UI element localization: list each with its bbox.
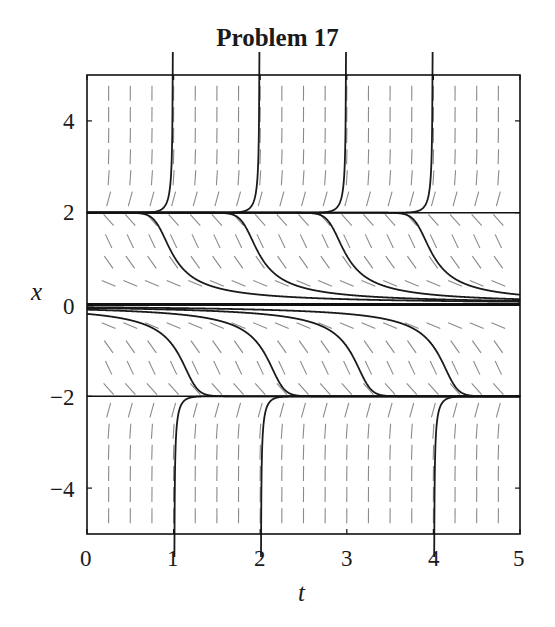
slope-mark	[342, 256, 351, 268]
slope-mark	[126, 341, 135, 353]
slope-mark	[344, 234, 350, 248]
slope-mark	[212, 383, 222, 394]
slope-mark	[385, 214, 395, 225]
slope-mark	[258, 403, 262, 417]
slope-mark	[238, 424, 239, 439]
slope-mark	[104, 341, 113, 353]
slope-mark	[494, 256, 503, 268]
slope-mark	[318, 280, 332, 286]
slope-mark	[130, 424, 131, 439]
slope-mark	[390, 170, 391, 185]
slope-mark	[215, 403, 219, 417]
slope-mark	[260, 170, 261, 185]
slope-mark	[472, 214, 482, 225]
slope-mark	[149, 234, 155, 248]
slope-mark	[472, 341, 481, 353]
slope-mark	[169, 383, 179, 394]
slope-mark	[151, 170, 152, 185]
slope-mark	[150, 403, 154, 417]
slope-mark	[216, 170, 217, 185]
slope-mark	[193, 403, 197, 417]
slope-mark	[128, 192, 132, 206]
slope-mark	[298, 383, 308, 394]
slope-mark	[127, 361, 133, 375]
slope-mark	[123, 323, 137, 329]
slope-mark	[125, 214, 135, 225]
slope-mark	[148, 341, 157, 353]
slope-mark	[234, 341, 243, 353]
slope-mark	[127, 234, 133, 248]
slope-mark	[191, 341, 200, 353]
slope-mark	[453, 403, 457, 417]
x-tick-5: 5	[513, 547, 525, 570]
slope-mark	[278, 256, 287, 268]
slope-mark	[253, 280, 267, 286]
slope-mark	[107, 403, 111, 417]
slope-mark	[431, 403, 435, 417]
slope-mark	[430, 361, 436, 375]
slope-mark	[169, 256, 178, 268]
slope-mark	[212, 214, 222, 225]
slope-mark	[279, 361, 285, 375]
slope-mark	[302, 403, 306, 417]
slope-mark	[275, 323, 289, 329]
slope-mark	[255, 214, 265, 225]
slope-mark	[149, 361, 155, 375]
slope-mark	[472, 383, 482, 394]
slope-mark	[388, 192, 392, 206]
slope-mark	[407, 256, 416, 268]
slope-mark	[494, 341, 503, 353]
slope-mark	[123, 280, 137, 286]
slope-mark	[491, 323, 505, 329]
solution-curve	[87, 308, 520, 396]
slope-mark	[346, 170, 347, 185]
slope-mark	[364, 341, 373, 353]
slope-mark	[213, 256, 222, 268]
slope-mark	[345, 192, 349, 206]
slope-mark	[453, 192, 457, 206]
slope-mark	[214, 234, 220, 248]
slope-mark	[104, 214, 114, 225]
slope-mark	[107, 192, 111, 206]
slope-mark	[475, 192, 479, 206]
slope-mark	[173, 424, 174, 439]
slope-mark	[322, 361, 328, 375]
x-tick-3: 3	[341, 547, 353, 570]
slope-mark	[104, 256, 113, 268]
slope-mark	[299, 256, 308, 268]
slope-mark	[297, 323, 311, 329]
slope-mark	[104, 383, 114, 394]
slope-mark	[496, 403, 500, 417]
slope-mark	[455, 424, 456, 439]
slope-mark	[108, 170, 109, 185]
slope-mark	[498, 170, 499, 185]
slope-mark	[386, 256, 395, 268]
slope-mark	[383, 323, 397, 329]
slope-mark	[366, 192, 370, 206]
slope-mark	[342, 383, 352, 394]
slope-mark	[125, 383, 135, 394]
slope-mark	[496, 192, 500, 206]
slope-mark	[473, 361, 479, 375]
slope-mark	[325, 424, 326, 439]
slope-mark	[451, 256, 460, 268]
slope-mark	[498, 424, 499, 439]
slope-mark	[238, 170, 239, 185]
x-tick-1: 1	[167, 547, 179, 570]
slope-mark	[170, 234, 176, 248]
slope-mark	[429, 256, 438, 268]
slope-mark	[388, 403, 392, 417]
y-tick-4: 4	[63, 110, 75, 133]
slope-mark	[108, 424, 109, 439]
slope-mark	[452, 361, 458, 375]
slope-mark	[256, 256, 265, 268]
slope-mark	[368, 424, 369, 439]
solution-curve	[87, 213, 520, 301]
slope-mark	[151, 424, 152, 439]
slope-mark	[428, 214, 438, 225]
solution-curve	[87, 213, 520, 295]
slope-mark	[302, 192, 306, 206]
slope-mark	[278, 341, 287, 353]
slope-mark	[491, 280, 505, 286]
slope-mark	[431, 192, 435, 206]
